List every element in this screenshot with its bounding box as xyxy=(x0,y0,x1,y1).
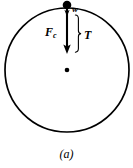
centripetal-force-subscript: c xyxy=(53,31,57,40)
center-point-dot xyxy=(65,68,70,73)
tension-label: T xyxy=(84,29,91,41)
tension-brace xyxy=(75,15,80,52)
diagram-canvas xyxy=(0,0,133,168)
physics-diagram-figure: w Fc T (a) xyxy=(0,0,133,168)
centripetal-force-label: Fc xyxy=(45,26,57,40)
weight-label: w xyxy=(72,5,78,14)
figure-caption: (a) xyxy=(0,147,133,162)
centripetal-force-symbol: F xyxy=(45,25,53,39)
ball-marker xyxy=(63,1,72,10)
